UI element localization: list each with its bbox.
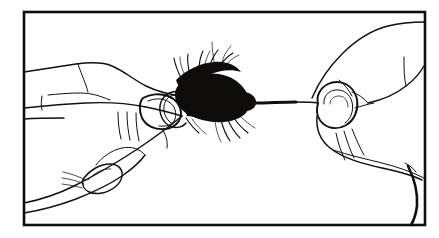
illustration-figure: Hands holding a fishing fly fly-fishing … [0,0,439,238]
leader-segment-thick [254,102,296,103]
leader-line [254,102,318,103]
illustration-canvas [0,0,439,238]
